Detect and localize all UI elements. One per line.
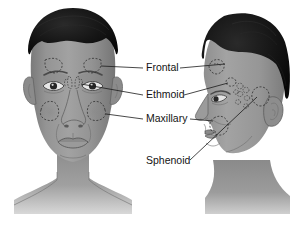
- anterior-left-iris: [50, 82, 57, 89]
- label-sphenoid: Sphenoid: [146, 154, 191, 166]
- anterior-maxillary-shade-right: [87, 104, 106, 121]
- lateral-iris: [213, 96, 218, 102]
- label-frontal: Frontal: [146, 61, 179, 73]
- anterior-left-nostril: [64, 125, 69, 128]
- label-maxillary: Maxillary: [146, 112, 188, 124]
- anterior-left-eye-highlight: [52, 84, 54, 86]
- anterior-right-nostril: [78, 125, 83, 128]
- sinus-anatomy-illustration: Frontal Ethmoid Maxillary Sphenoid: [0, 0, 305, 236]
- label-ethmoid: Ethmoid: [146, 88, 185, 100]
- anterior-maxillary-shade-left: [41, 104, 60, 121]
